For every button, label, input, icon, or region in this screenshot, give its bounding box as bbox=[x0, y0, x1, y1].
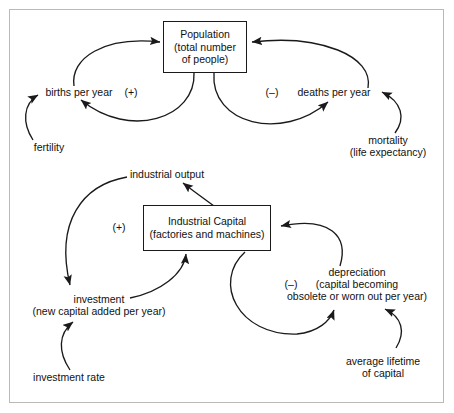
arrow-lifetime-to-depreciation bbox=[385, 309, 401, 348]
diagram-canvas: Population (total number of people) Indu… bbox=[0, 0, 454, 413]
sign-investment-loop: (+) bbox=[112, 221, 125, 233]
label-depreciation-line-2: (capital becoming bbox=[316, 278, 398, 291]
arrow-mortality-to-deaths bbox=[382, 92, 401, 133]
label-depreciation-line-3: obsolete or worn out per year) bbox=[287, 290, 427, 303]
node-industrial-capital-line-1: Industrial Capital bbox=[168, 215, 246, 228]
label-industrial-output[interactable]: industrial output bbox=[130, 168, 204, 181]
sign-depreciation-loop: (–) bbox=[285, 278, 298, 290]
arrow-births-to-population bbox=[74, 41, 160, 86]
node-population-line-3: of people) bbox=[182, 53, 229, 66]
label-mortality-line-1[interactable]: mortality bbox=[368, 134, 408, 147]
arrow-rate-to-investment bbox=[61, 322, 73, 370]
label-depreciation-line-1[interactable]: depreciation bbox=[328, 266, 385, 279]
node-population-line-2: (total number bbox=[174, 41, 236, 54]
sign-deaths-loop: (–) bbox=[266, 86, 279, 98]
label-mortality-line-2: (life expectancy) bbox=[350, 146, 426, 159]
node-industrial-capital-line-2: (factories and machines) bbox=[150, 228, 265, 241]
node-industrial-capital[interactable]: Industrial Capital (factories and machin… bbox=[143, 205, 271, 251]
arrow-deaths-to-population bbox=[252, 40, 368, 88]
label-deaths-per-year[interactable]: deaths per year bbox=[298, 86, 371, 99]
node-population-line-1: Population bbox=[180, 28, 230, 41]
label-average-lifetime-line-1[interactable]: average lifetime bbox=[346, 355, 420, 368]
label-investment-line-1[interactable]: investment bbox=[74, 293, 125, 306]
label-fertility[interactable]: fertility bbox=[34, 141, 64, 154]
sign-births-loop: (+) bbox=[124, 86, 137, 98]
label-investment-line-2: (new capital added per year) bbox=[32, 305, 165, 318]
arrow-investment-to-capital bbox=[130, 254, 186, 298]
node-population[interactable]: Population (total number of people) bbox=[163, 21, 247, 73]
arrow-fertility-to-births bbox=[26, 95, 38, 140]
arrow-depreciation-to-capital bbox=[281, 223, 342, 266]
label-investment-rate[interactable]: investment rate bbox=[33, 371, 105, 384]
arrow-capital-to-output bbox=[183, 183, 214, 206]
label-births-per-year[interactable]: births per year bbox=[45, 86, 112, 99]
label-average-lifetime-line-2: of capital bbox=[362, 367, 404, 380]
